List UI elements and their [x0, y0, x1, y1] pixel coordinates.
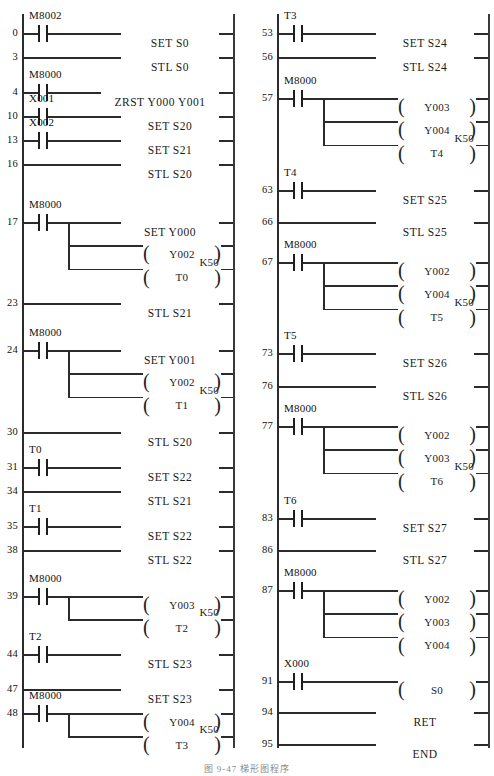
- rung-wire: [22, 491, 121, 493]
- contact-T2: T2: [38, 646, 48, 663]
- branch-vertical-wire: [68, 713, 70, 736]
- bracket-left: [121, 491, 128, 512]
- rung-step-number: 56: [247, 52, 273, 63]
- bracket-left: [121, 550, 128, 571]
- rung-wire: [474, 386, 488, 388]
- coil-y002: ()Y002: [398, 262, 476, 281]
- coil-y003: ()Y003: [398, 98, 476, 117]
- instruction-set: SET S0: [121, 33, 219, 54]
- rung-wire: [22, 467, 38, 469]
- contact-label: X000: [284, 658, 309, 669]
- coil-y004: ()Y004: [398, 637, 476, 656]
- contact-T5: T5: [293, 345, 303, 362]
- rung-wire: [277, 386, 376, 388]
- rung-step-number: 53: [247, 28, 273, 39]
- bracket-right: [212, 654, 219, 675]
- rung-wire: [219, 467, 233, 469]
- instruction-text: SET S25: [383, 194, 467, 207]
- contact-X002: X002: [38, 132, 48, 149]
- instruction-stl: STL S20: [121, 164, 219, 185]
- contact-T0: T0: [38, 459, 48, 476]
- coil-preset-value: K50: [199, 724, 219, 735]
- rung-wire: [221, 736, 233, 738]
- bracket-right: [212, 350, 219, 371]
- rung-wire: [219, 33, 233, 35]
- rung-wire: [277, 426, 293, 428]
- instruction-set: SET S27: [376, 518, 474, 539]
- bracket-right: [212, 57, 219, 78]
- bracket-left: [376, 744, 383, 765]
- coil-label: T6: [398, 475, 476, 487]
- coil-label: T1: [143, 399, 221, 411]
- rung-wire: [476, 98, 488, 100]
- bracket-left: [121, 526, 128, 547]
- contact-bar-left: [293, 418, 295, 435]
- rung-wire: [476, 449, 488, 451]
- rung-step-number: 91: [247, 676, 273, 687]
- rung-wire: [476, 637, 488, 639]
- rung-wire: [277, 712, 376, 714]
- instruction-text: STL S27: [383, 554, 467, 567]
- contact-bar-right: [46, 705, 48, 722]
- contact-bar-right: [301, 254, 303, 271]
- instruction-text: SET S26: [383, 357, 467, 370]
- bracket-right: [212, 491, 219, 512]
- bracket-right: [212, 303, 219, 324]
- rung-wire: [22, 432, 121, 434]
- instruction-text: END: [383, 748, 467, 761]
- coil-label: Y002: [398, 265, 476, 277]
- rung-wire: [476, 590, 488, 592]
- rung-wire: [221, 245, 233, 247]
- contact-label: M8000: [284, 75, 317, 86]
- left-power-rail-right: [277, 14, 279, 748]
- rung-step-number: 16: [0, 159, 18, 170]
- rung-wire: [219, 491, 233, 493]
- instruction-stl: STL S21: [121, 491, 219, 512]
- instruction-zrst: ZRST Y000 Y001: [101, 92, 219, 113]
- rung-wire: [476, 121, 488, 123]
- instruction-text: SET S20: [128, 120, 212, 133]
- bracket-right: [467, 190, 474, 211]
- instruction-stl: STL S27: [376, 550, 474, 571]
- contact-bar-right: [301, 182, 303, 199]
- instruction-text: SET S22: [128, 530, 212, 543]
- rung-wire: [219, 92, 233, 94]
- rung-wire: [48, 350, 121, 352]
- rung-wire: [303, 262, 398, 264]
- rung-step-number: 47: [0, 684, 18, 695]
- rung-wire: [474, 744, 488, 746]
- rung-wire: [474, 33, 488, 35]
- bracket-right: [212, 164, 219, 185]
- instruction-text: RET: [383, 716, 467, 729]
- rung-wire: [22, 57, 121, 59]
- rung-wire: [48, 140, 121, 142]
- contact-M8002: M8002: [38, 25, 48, 42]
- instruction-set: SET Y001: [121, 350, 219, 371]
- rung-wire: [48, 596, 143, 598]
- instruction-text: STL S26: [383, 390, 467, 403]
- rung-wire: [277, 681, 293, 683]
- contact-label: T2: [29, 631, 42, 642]
- bracket-left: [101, 92, 108, 113]
- rung-wire: [303, 353, 376, 355]
- rung-wire: [219, 654, 233, 656]
- contact-label: T6: [284, 495, 297, 506]
- contact-M8000: M8000: [38, 588, 48, 605]
- contact-T3: T3: [293, 25, 303, 42]
- contact-X000: X000: [293, 673, 303, 690]
- contact-label: T4: [284, 167, 297, 178]
- bracket-left: [121, 689, 128, 710]
- bracket-right: [467, 518, 474, 539]
- bracket-right: [467, 353, 474, 374]
- instruction-text: SET S0: [128, 37, 212, 50]
- instruction-stl: STL S22: [121, 550, 219, 571]
- rung-wire: [323, 309, 398, 311]
- coil-preset-value: K50: [199, 607, 219, 618]
- coil-t2: ()T2K50: [143, 619, 221, 638]
- coil-s0: ()S0: [398, 681, 476, 700]
- bracket-right: [212, 432, 219, 453]
- contact-bar-left: [293, 182, 295, 199]
- rung-wire: [68, 736, 143, 738]
- contact-M8000: M8000: [293, 582, 303, 599]
- rung-wire: [476, 473, 488, 475]
